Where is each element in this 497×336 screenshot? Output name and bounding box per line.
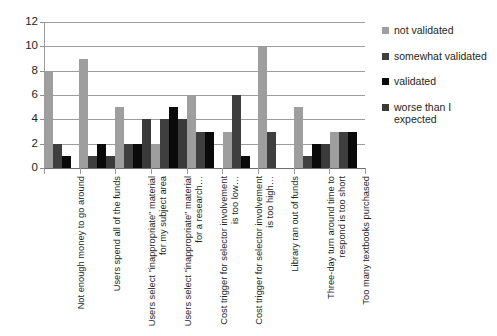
x-axis-tick	[187, 168, 188, 174]
bar	[124, 144, 133, 168]
x-axis-tick	[258, 168, 259, 174]
bar	[348, 132, 357, 169]
bar	[241, 156, 250, 168]
bar-group	[294, 22, 330, 168]
bar	[258, 46, 267, 168]
y-axis-tick-label: 4	[0, 113, 38, 124]
bar	[205, 132, 214, 169]
x-axis-category-label: Too many textbooks purchased	[361, 176, 401, 328]
legend-item[interactable]: worse than I expected	[382, 101, 494, 126]
x-axis-category-label: Three-day turn around time to respond is…	[326, 176, 366, 328]
bar	[187, 95, 196, 168]
bar-groups	[44, 22, 365, 168]
plot-area	[44, 22, 365, 168]
legend-label: not validated	[394, 24, 454, 37]
bar-chart: 121086420 Not enough money to go aroundU…	[0, 0, 497, 336]
x-axis-tick	[44, 168, 45, 174]
legend-item[interactable]: not validated	[382, 24, 494, 37]
bar	[232, 95, 241, 168]
x-axis-category-label: Users spend all of the funds	[112, 176, 152, 328]
bar	[142, 119, 151, 168]
x-axis-category-labels: Not enough money to go aroundUsers spend…	[44, 176, 365, 334]
x-axis-tick	[222, 168, 223, 174]
bar	[267, 132, 276, 169]
x-axis	[44, 168, 365, 175]
x-axis-tick	[294, 168, 295, 174]
bar-group	[330, 22, 365, 168]
y-axis-tick-label: 12	[0, 16, 38, 27]
bar-group	[79, 22, 115, 168]
chart-legend: not validatedsomewhat validatedvalidated…	[382, 24, 494, 139]
x-axis-category-label: Cost trigger for selector involvement is…	[254, 176, 294, 328]
bar	[321, 144, 330, 168]
bar-group	[258, 22, 293, 168]
legend-label: validated	[394, 75, 436, 88]
x-axis-category-label: Library ran out of funds	[290, 176, 330, 328]
y-axis-tick-label: 2	[0, 138, 38, 149]
legend-swatch-icon	[382, 27, 389, 34]
y-axis-tick-label: 0	[0, 162, 38, 173]
x-axis-tick	[80, 168, 81, 174]
bar	[88, 156, 97, 168]
bar	[44, 71, 53, 168]
bar-group	[115, 22, 151, 168]
x-axis-tick	[365, 168, 366, 174]
bar	[115, 107, 124, 168]
legend-label: somewhat validated	[394, 50, 487, 63]
bar	[339, 132, 348, 169]
x-axis-category-label: Users select "inappropriate" material fo…	[183, 176, 223, 328]
bar	[169, 107, 178, 168]
x-axis-category-label: Users select "inappropriate" material fo…	[147, 176, 187, 328]
bar-group	[223, 22, 258, 168]
bar	[312, 144, 321, 168]
bar	[97, 144, 106, 168]
bar	[133, 144, 142, 168]
bar	[223, 132, 232, 169]
bar	[330, 132, 339, 169]
legend-swatch-icon	[382, 53, 389, 60]
y-axis-tick-label: 6	[0, 89, 38, 100]
bar-group	[44, 22, 79, 168]
x-axis-category-label: Not enough money to go around	[76, 176, 116, 328]
bar	[151, 144, 160, 168]
bar	[106, 156, 115, 168]
bar	[160, 119, 169, 168]
x-axis-tick	[329, 168, 330, 174]
legend-label: worse than I expected	[394, 101, 494, 126]
x-axis-tick	[115, 168, 116, 174]
legend-item[interactable]: somewhat validated	[382, 50, 494, 63]
legend-swatch-icon	[382, 78, 389, 85]
bar-group	[151, 22, 187, 168]
bar	[79, 59, 88, 169]
legend-swatch-icon	[382, 104, 389, 111]
bar	[62, 156, 71, 168]
x-axis-tick	[151, 168, 152, 174]
bar	[178, 119, 187, 168]
y-axis-tick-label: 10	[0, 40, 38, 51]
x-axis-category-label: Cost trigger for selector involvement is…	[219, 176, 259, 328]
legend-item[interactable]: validated	[382, 75, 494, 88]
bar	[196, 132, 205, 169]
bar-group	[187, 22, 222, 168]
bar	[53, 144, 62, 168]
y-axis-tick-label: 8	[0, 65, 38, 76]
bar	[303, 156, 312, 168]
bar	[294, 107, 303, 168]
